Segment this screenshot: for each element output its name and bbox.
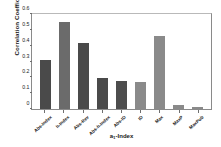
x-axis-tick-label: Max — [154, 115, 164, 125]
bar-slot — [74, 14, 93, 109]
plot-area: 00.10.20.30.40.50.6 — [31, 13, 212, 110]
bar — [192, 107, 203, 109]
x-axis-tick-label: MaxPub — [189, 115, 205, 131]
x-axis-tick-label: MaxP — [172, 115, 184, 127]
x-axis-title: a1-Index — [31, 133, 212, 139]
bar-slot — [93, 14, 112, 109]
bar — [97, 78, 108, 109]
x-label-slot: ID — [131, 113, 150, 133]
x-axis-tick-label: ID — [137, 115, 144, 122]
y-axis-tick-label: 0.6 — [22, 5, 29, 11]
y-axis-tick-label: 0 — [27, 100, 30, 106]
bar-slot — [131, 14, 150, 109]
bar-slot — [169, 14, 188, 109]
bar-slot — [36, 14, 55, 109]
bar — [173, 105, 184, 109]
x-label-slot: MaxPub — [189, 113, 208, 133]
x-label-slot: Abs-h-Index — [93, 113, 112, 133]
y-axis-tick-label: 0.1 — [22, 84, 29, 90]
y-axis-tick-label: 0.4 — [22, 37, 29, 43]
x-label-slot: h-Index — [54, 113, 73, 133]
x-axis-tick-labels: Abs-Indexh-IndexAbs-RevAbs-h-IndexAbs-ID… — [31, 113, 212, 133]
bar — [135, 82, 146, 109]
y-axis-tick-label: 0.2 — [22, 68, 29, 74]
bar-chart-figure: Correlation Coefficient 00.10.20.30.40.5… — [0, 0, 221, 147]
bar — [78, 43, 89, 110]
y-axis-tick-label: 0.5 — [22, 21, 29, 27]
bar-slot — [112, 14, 131, 109]
bar-slot — [188, 14, 207, 109]
bar — [59, 22, 70, 109]
x-axis-tick-label: Abs-ID — [113, 115, 127, 129]
x-label-slot: Abs-Index — [35, 113, 54, 133]
y-axis-tick-label: 0.3 — [22, 53, 29, 59]
x-axis-tick-label: Abs-Rev — [73, 115, 90, 131]
x-axis-tick-label: h-Index — [55, 115, 70, 130]
x-label-slot: Abs-ID — [112, 113, 131, 133]
x-label-slot: MaxP — [170, 113, 189, 133]
x-axis-title-subscript: 1 — [113, 135, 115, 140]
bar — [116, 81, 127, 109]
bar-slot — [55, 14, 74, 109]
y-axis-title: Correlation Coefficient — [13, 0, 20, 70]
bar-slot — [150, 14, 169, 109]
bar — [154, 36, 165, 109]
x-label-slot: Max — [150, 113, 169, 133]
x-axis-title-tail: -Index — [116, 133, 134, 139]
bar — [40, 60, 51, 109]
bars-container — [32, 14, 211, 109]
x-axis-tick-label: Abs-Index — [33, 115, 53, 134]
